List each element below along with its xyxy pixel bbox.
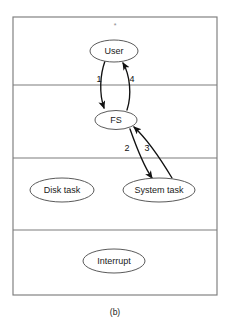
figure-root: * User FS Disk task System task: [0, 0, 230, 328]
node-disk-task-label: Disk task: [44, 185, 81, 195]
arrow-4-path: [123, 63, 130, 110]
node-fs[interactable]: FS: [95, 111, 137, 130]
node-interrupt[interactable]: Interrupt: [83, 249, 145, 273]
arrow-2-path: [130, 129, 152, 178]
node-interrupt-label: Interrupt: [97, 256, 131, 266]
arrow-3-label: 3: [144, 143, 149, 153]
node-system-task[interactable]: System task: [123, 178, 195, 202]
top-mark-glyph: *: [114, 22, 117, 29]
arrow-2-label: 2: [124, 143, 129, 153]
arrow-4-label: 4: [129, 74, 134, 84]
node-system-task-label: System task: [134, 185, 184, 195]
arrow-1-label: 1: [96, 74, 101, 84]
node-fs-label: FS: [110, 115, 122, 125]
figure-caption: (b): [110, 307, 121, 317]
layered-task-diagram: * User FS Disk task System task: [0, 0, 230, 328]
node-user[interactable]: User: [90, 40, 138, 62]
node-user-label: User: [104, 46, 123, 56]
node-disk-task[interactable]: Disk task: [30, 178, 94, 202]
arrow-3-path: [134, 127, 172, 178]
